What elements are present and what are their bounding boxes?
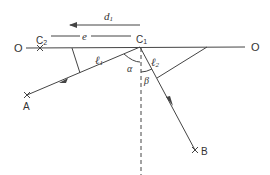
label-alpha: α — [127, 63, 133, 74]
perpendicular-l2 — [157, 47, 207, 78]
reflection-diagram: O O C2 C1 d1 e ℓ1 ℓ2 α β A B — [0, 0, 270, 175]
label-e: e — [82, 30, 87, 42]
reflected-arrow-icon — [166, 96, 173, 106]
baseline-oo — [26, 47, 245, 48]
label-d1: d1 — [104, 10, 113, 23]
a-cross-icon — [24, 92, 30, 98]
perpendicular-l1 — [72, 48, 80, 73]
b-cross-icon — [192, 147, 198, 153]
label-c1: C1 — [136, 34, 147, 45]
label-l1: ℓ1 — [95, 54, 103, 67]
label-a: A — [23, 101, 30, 112]
label-l2: ℓ2 — [151, 56, 160, 69]
beta-arc — [141, 69, 152, 72]
label-c2: C2 — [36, 35, 47, 46]
label-beta: β — [143, 75, 149, 86]
label-o-left: O — [14, 42, 23, 54]
label-b: B — [201, 146, 208, 157]
incident-ray — [27, 47, 140, 95]
label-o-right: O — [251, 41, 260, 53]
alpha-arc — [124, 54, 140, 62]
